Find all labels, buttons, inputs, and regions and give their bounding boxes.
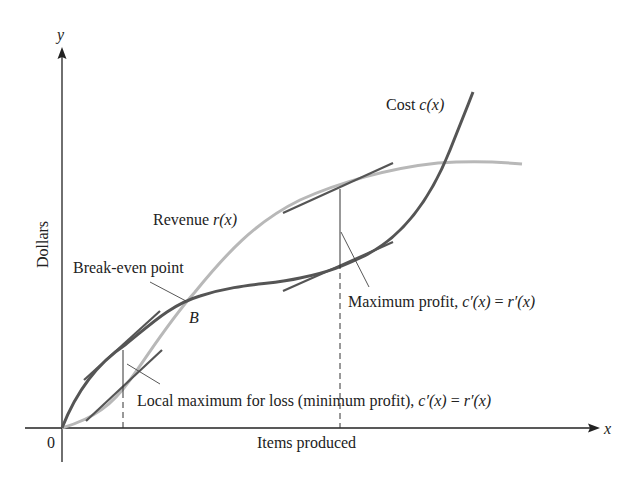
- min-profit-label: Local maximum for loss (minimum profit),…: [137, 392, 491, 410]
- revenue-tangent-max: [283, 163, 393, 213]
- x-axis-title: Items produced: [257, 434, 356, 452]
- break-even-label: Break-even point: [73, 259, 184, 277]
- cost-tangent-min: [84, 311, 160, 380]
- profit-diagram: y x 0 Items produced Dollars Revenue r(x…: [0, 0, 629, 484]
- origin-label: 0: [47, 434, 55, 451]
- revenue-tangent-min: [86, 350, 162, 421]
- y-axis-label: y: [55, 26, 65, 44]
- cost-tangent-max: [283, 242, 393, 291]
- x-axis-label: x: [603, 420, 611, 437]
- y-axis-title: Dollars: [34, 221, 51, 268]
- tangent-lines: [84, 163, 393, 421]
- break-even-point-label: B: [189, 309, 199, 326]
- cost-label: Cost c(x): [386, 96, 444, 114]
- leader-lines: [127, 232, 369, 384]
- max-profit-label: Maximum profit, c′(x) = r′(x): [348, 293, 535, 311]
- revenue-label: Revenue r(x): [153, 211, 237, 229]
